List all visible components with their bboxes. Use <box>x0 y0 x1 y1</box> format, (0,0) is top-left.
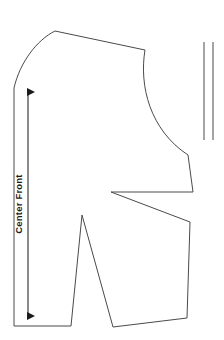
pattern-diagram-canvas: Center Front <box>0 0 224 340</box>
center-front-label: Center Front <box>13 174 24 234</box>
pattern-svg-root: Center Front <box>0 0 224 340</box>
